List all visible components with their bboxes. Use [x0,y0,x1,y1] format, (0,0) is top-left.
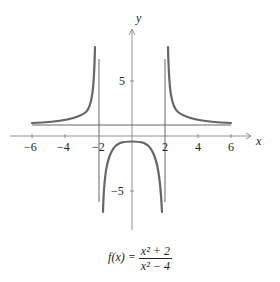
x-axis-label: x [255,134,262,148]
asymptotes [32,59,231,202]
y-tick-label: 5 [119,74,125,88]
caption-numerator: x² + 2 [139,244,172,259]
x-tick-label: 2 [162,140,168,154]
curve-left-branch [32,47,95,123]
y-tick-label: −5 [111,184,124,198]
function-plot: −6 −4 −2 2 4 6 x 5 −5 y [0,0,280,282]
caption-lhs: f(x) = [108,250,136,264]
x-tick-label: −4 [57,140,70,154]
x-tick-label: 4 [195,140,201,154]
x-tick-label: −6 [24,140,37,154]
y-axis-label: y [135,11,142,25]
function-caption: f(x) = x² + 2 x² − 4 [0,244,280,273]
x-tick-label: 6 [228,140,234,154]
curve-right-branch [168,47,231,123]
curve-middle-branch [103,142,162,213]
x-tick-label: −2 [92,140,105,154]
caption-fraction: x² + 2 x² − 4 [139,244,172,273]
caption-denominator: x² − 4 [139,259,172,273]
